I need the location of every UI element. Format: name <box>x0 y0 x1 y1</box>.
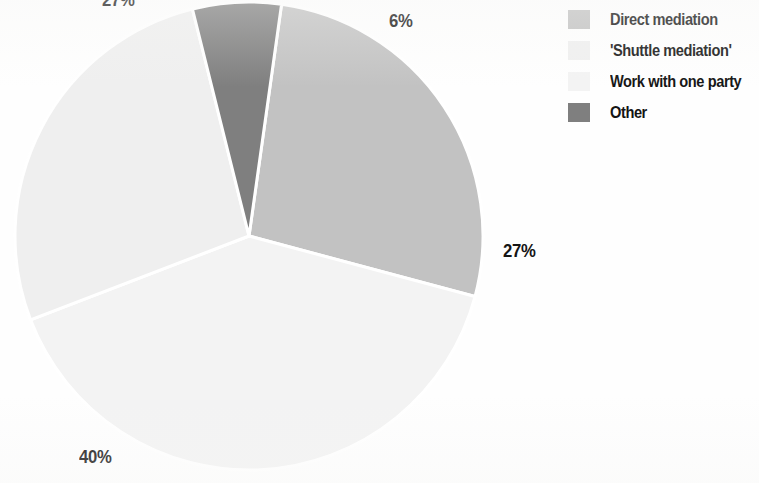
pie-label-other-6: 6% <box>389 10 412 32</box>
pie-label-shuttle-mediation-27: 27% <box>102 0 134 11</box>
pie-slice-group <box>15 2 483 470</box>
legend-swatch-icon <box>568 72 590 91</box>
legend-swatch-icon <box>568 10 590 29</box>
legend-item-other: Other <box>568 97 759 128</box>
legend-label: Direct mediation <box>610 10 718 30</box>
pie-chart-figure: 6% 27% 40% 27% Direct mediation 'Shuttle… <box>0 0 759 483</box>
legend-item-direct-mediation: Direct mediation <box>568 4 759 35</box>
legend-swatch-icon <box>568 41 590 60</box>
legend-item-work-with-one-party: Work with one party <box>568 66 759 97</box>
legend-swatch-icon <box>568 103 590 122</box>
legend-label: 'Shuttle mediation' <box>610 41 731 61</box>
chart-legend: Direct mediation 'Shuttle mediation' Wor… <box>568 4 759 128</box>
legend-item-shuttle-mediation: 'Shuttle mediation' <box>568 35 759 66</box>
pie-label-work-with-one-party-40: 40% <box>79 446 111 468</box>
legend-label: Other <box>610 103 647 123</box>
pie-label-direct-mediation-27: 27% <box>503 240 535 262</box>
legend-label: Work with one party <box>610 72 741 92</box>
